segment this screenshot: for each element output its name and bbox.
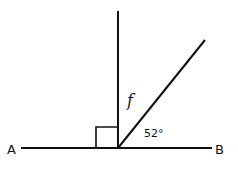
label-point-a: A	[7, 142, 16, 157]
label-angle-52: 52°	[144, 127, 164, 140]
right-angle-marker	[96, 127, 118, 148]
label-point-b: B	[215, 142, 224, 157]
angle-diagram: A B f 52°	[0, 0, 238, 169]
label-angle-f: f	[126, 91, 136, 110]
